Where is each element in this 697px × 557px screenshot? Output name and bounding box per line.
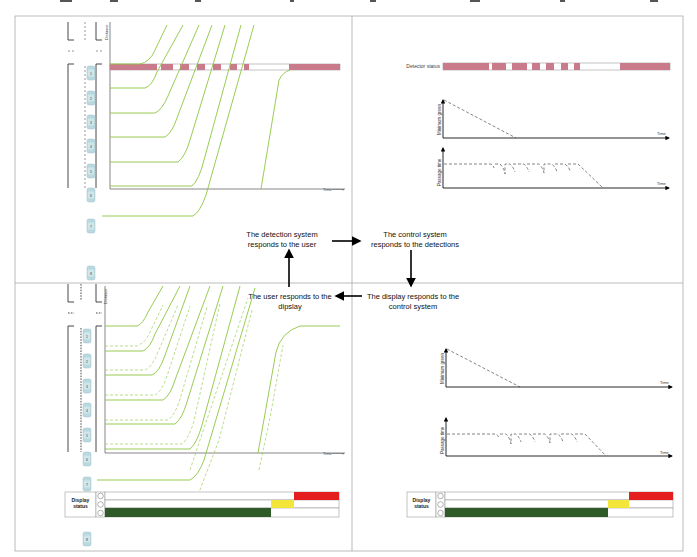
svg-text:6: 6	[86, 458, 88, 462]
label-control-system: The control system responds to the detec…	[360, 230, 470, 250]
svg-text:6: 6	[90, 194, 92, 198]
vehicle-trajectories	[102, 25, 290, 216]
top-right-timers-panel: Detector status Minimum green Time Passa…	[406, 63, 670, 188]
label-display-responds: The display responds to the control syst…	[358, 292, 468, 312]
svg-text:Detector status: Detector status	[406, 63, 440, 69]
detector-status-bar-right	[443, 63, 670, 70]
svg-text:1: 1	[86, 335, 88, 339]
svg-text:3: 3	[86, 385, 88, 389]
svg-text:Minimum green: Minimum green	[437, 103, 442, 135]
passage-time-chart: Passage time Time	[437, 148, 669, 188]
label-detection-system: The detection system responds to the use…	[232, 230, 332, 250]
minimum-green-chart: Minimum green Time	[437, 100, 669, 138]
svg-text:Time: Time	[323, 187, 333, 192]
svg-text:7: 7	[86, 483, 88, 487]
svg-text:Minimum green: Minimum green	[440, 352, 445, 384]
display-status-label-left: Display status	[65, 497, 96, 509]
svg-text:4: 4	[86, 409, 88, 413]
svg-text:7: 7	[90, 225, 92, 229]
label-user-responds: The user responds to the dipslay	[240, 292, 340, 312]
svg-text:Passage time: Passage time	[440, 426, 445, 454]
vehicle-trajectories-detector	[105, 298, 283, 495]
svg-text:Time: Time	[657, 181, 667, 186]
svg-text:Distance: Distance	[104, 24, 109, 40]
svg-text:2: 2	[90, 97, 92, 101]
svg-text:1: 1	[90, 72, 92, 76]
svg-text:4: 4	[90, 145, 92, 149]
svg-text:Time: Time	[660, 380, 670, 385]
svg-text:8: 8	[86, 538, 88, 542]
cropped-header-text	[60, 0, 658, 2]
svg-text:Passage time: Passage time	[437, 158, 442, 186]
bottom-left-trajectory-panel: 12 34 56 78 Distance Time	[65, 284, 345, 546]
svg-text:Distance: Distance	[103, 288, 108, 304]
frame	[15, 16, 683, 551]
svg-text:Time: Time	[323, 451, 333, 456]
bottom-right-timers-panel: Minimum green Time Passage time Time	[407, 349, 673, 517]
svg-text:2: 2	[86, 360, 88, 364]
svg-text:5: 5	[90, 170, 92, 174]
svg-text:Time: Time	[660, 450, 670, 455]
vehicle-trajectories-actual	[97, 286, 340, 480]
display-status-right	[407, 492, 673, 517]
diagram-canvas: 12 34 56 78 Distance Time	[0, 0, 697, 557]
passage-time-chart-bottom: Passage time Time	[440, 418, 672, 456]
display-status-label-right: Display status	[407, 497, 436, 509]
svg-text:3: 3	[90, 121, 92, 125]
minimum-green-chart-bottom: Minimum green Time	[440, 349, 672, 387]
svg-text:Time: Time	[657, 131, 667, 136]
display-status-left	[65, 492, 339, 517]
svg-text:5: 5	[86, 434, 88, 438]
detector-status-bar-left	[110, 64, 340, 70]
svg-text:8: 8	[90, 272, 92, 276]
